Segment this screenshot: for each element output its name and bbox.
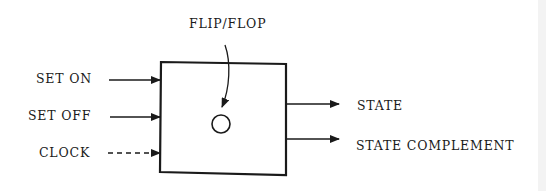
output-label-state-complement: STATE COMPLEMENT xyxy=(356,138,514,153)
input-label-set-off: SET OFF xyxy=(28,108,91,123)
output-label-state: STATE xyxy=(357,98,403,113)
input-label-clock: CLOCK xyxy=(39,145,90,160)
flip-flop-diagram: FLIP/FLOP SET ON SET OFF CLOCK STATE STA… xyxy=(0,0,546,191)
flip-flop-box xyxy=(160,62,286,175)
flip-flop-pointer-arrow xyxy=(222,45,229,107)
state-circle xyxy=(212,115,230,133)
input-label-set-on: SET ON xyxy=(36,71,92,86)
flip-flop-label: FLIP/FLOP xyxy=(189,16,266,31)
